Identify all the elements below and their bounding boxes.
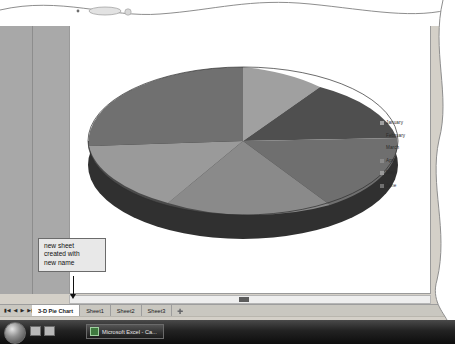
annotation-line: new name: [44, 259, 101, 267]
pie-chart[interactable]: [84, 37, 402, 245]
windows-taskbar: Microsoft Excel - Ca...: [0, 320, 455, 344]
legend-label: February: [386, 133, 405, 139]
taskbar-task-button[interactable]: Microsoft Excel - Ca...: [86, 324, 164, 339]
legend-label: May: [386, 170, 395, 176]
legend-item[interactable]: April: [380, 156, 424, 166]
chart-sheet-area[interactable]: January February March April: [69, 20, 431, 294]
page-bottom-margin: [0, 344, 455, 352]
quick-launch-icon[interactable]: [30, 326, 41, 336]
horizontal-scrollbar[interactable]: [69, 295, 431, 304]
pie-chart-svg: [84, 37, 402, 245]
legend-swatch-icon: [380, 134, 384, 138]
legend-swatch-icon: [380, 121, 384, 125]
legend-label: April: [386, 158, 396, 164]
legend-item[interactable]: May: [380, 168, 424, 178]
annotation-leader-line: [73, 276, 74, 296]
annotation-line: created with: [44, 250, 101, 258]
legend-label: June: [386, 183, 396, 189]
left-margin-panel: [0, 20, 33, 294]
chart-legend[interactable]: January February March April: [380, 118, 424, 193]
start-button-icon[interactable]: [4, 322, 26, 344]
legend-item[interactable]: March: [380, 143, 424, 153]
annotation-line: new sheet: [44, 242, 101, 250]
legend-swatch-icon: [380, 171, 384, 175]
legend-label: January: [386, 120, 403, 126]
excel-icon: [90, 327, 99, 336]
annotation-arrow-icon: [70, 294, 76, 299]
legend-item[interactable]: June: [380, 181, 424, 191]
legend-swatch-icon: [380, 146, 384, 150]
quick-launch-icon[interactable]: [44, 326, 55, 336]
excel-screenshot: January February March April: [0, 0, 455, 352]
annotation-callout: new sheet created with new name: [38, 238, 106, 272]
first-sheet-icon[interactable]: ▮◀: [4, 307, 11, 314]
excel-window: January February March April: [0, 16, 455, 320]
next-sheet-icon[interactable]: ▶: [20, 307, 24, 314]
taskbar-task-label: Microsoft Excel - Ca...: [102, 329, 157, 335]
quick-launch-bar[interactable]: [30, 326, 55, 336]
tab-navigation-buttons[interactable]: ▮◀ ◀ ▶ ▶▮: [4, 307, 34, 314]
legend-item[interactable]: February: [380, 131, 424, 141]
legend-swatch-icon: [380, 159, 384, 163]
legend-swatch-icon: [380, 184, 384, 188]
previous-sheet-icon[interactable]: ◀: [14, 307, 18, 314]
legend-item[interactable]: January: [380, 118, 424, 128]
chart-canvas[interactable]: January February March April: [70, 21, 430, 293]
scrollbar-thumb[interactable]: [239, 297, 249, 302]
legend-label: March: [386, 145, 399, 151]
